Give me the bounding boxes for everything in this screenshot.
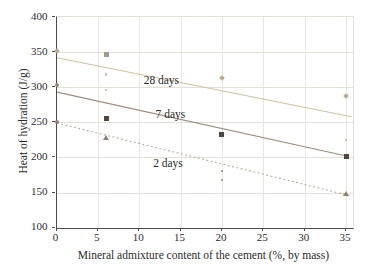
fit-lines: [57, 17, 354, 228]
plot-area: [56, 16, 355, 229]
y-tick: [52, 227, 55, 228]
x-axis-title: Mineral admixture content of the cement …: [55, 249, 352, 261]
y-tick-label: 250: [18, 116, 48, 127]
y-tick-label: 350: [18, 46, 48, 57]
marker-7-days: [104, 116, 109, 121]
x-tick-label: 30: [298, 232, 309, 243]
fit-line-7-days: [57, 92, 347, 156]
x-tick-label: 0: [53, 232, 59, 243]
x-tick-label: 35: [340, 232, 351, 243]
y-tick-label: 400: [18, 11, 48, 22]
marker-28-days: [104, 52, 109, 57]
series-label-28-days: 28 days: [144, 74, 179, 86]
marker-2-days: [103, 135, 109, 140]
chart: Heat of hydration (J/g) Mineral admixtur…: [0, 0, 365, 275]
fit-line-28-days: [57, 58, 351, 117]
x-tick-label: 20: [215, 232, 226, 243]
marker-7-days: [219, 132, 224, 137]
y-tick: [52, 16, 55, 17]
y-tick: [52, 51, 55, 52]
y-tick: [52, 192, 55, 193]
y-tick: [52, 86, 55, 87]
x-tick-label: 15: [174, 232, 185, 243]
marker-7-days: [55, 83, 59, 87]
y-tick-label: 150: [18, 186, 48, 197]
y-tick-label: 100: [18, 221, 48, 232]
y-tick-label: 200: [18, 151, 48, 162]
marker-7-days: [344, 154, 349, 159]
x-tick-label: 25: [257, 232, 268, 243]
y-tick-label: 300: [18, 81, 48, 92]
marker-2-days: [55, 120, 59, 124]
fit-line-2-days: [57, 123, 351, 196]
y-tick: [52, 156, 55, 157]
series-label-2-days: 2 days: [153, 157, 183, 169]
x-tick-label: 10: [133, 232, 144, 243]
series-label-7-days: 7 days: [156, 108, 186, 120]
x-tick-label: 5: [94, 232, 100, 243]
y-tick: [52, 121, 55, 122]
marker-2-days: [343, 191, 349, 196]
